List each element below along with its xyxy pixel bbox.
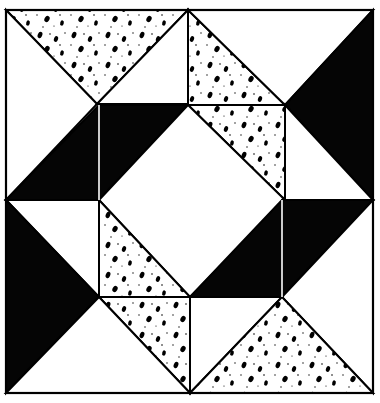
quilt-pieces <box>6 10 373 393</box>
quilt-block-figure <box>0 0 380 403</box>
